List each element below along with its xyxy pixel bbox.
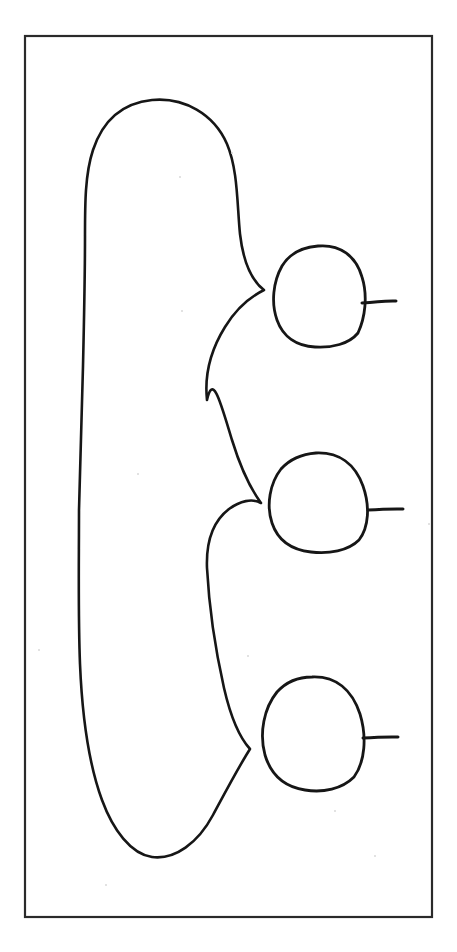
circle-lower (262, 677, 364, 791)
circle-middle (269, 453, 367, 553)
main-blob (79, 100, 264, 858)
page-canvas (0, 0, 457, 952)
circle-middle-group (269, 453, 403, 553)
tail-lower (363, 737, 398, 738)
tail-upper (362, 301, 396, 303)
main-blob-group (79, 100, 264, 858)
circle-upper-group (274, 246, 396, 347)
tail-middle (368, 509, 403, 510)
circle-lower-group (262, 677, 398, 791)
circle-upper (274, 246, 366, 347)
diagram-figure (0, 0, 457, 952)
